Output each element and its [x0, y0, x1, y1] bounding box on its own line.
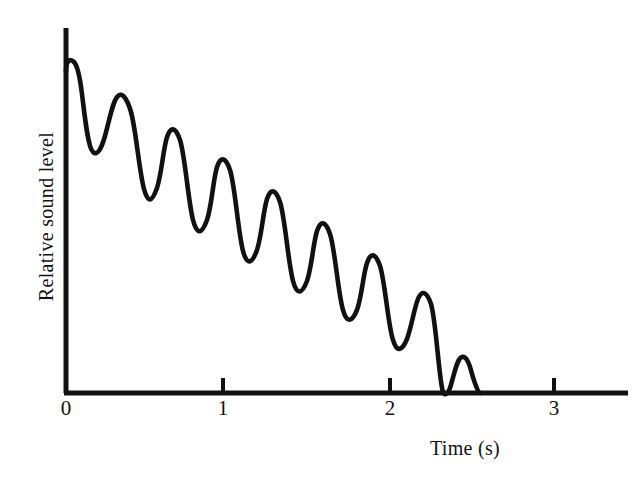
y-axis-title: Relative sound level	[35, 107, 58, 327]
sound-level-curve	[66, 60, 480, 394]
x-tick-label-1: 1	[208, 396, 238, 421]
sound-decay-chart: 0 1 2 3 Time (s) Relative sound level	[0, 0, 644, 484]
x-tick-label-0: 0	[51, 396, 81, 421]
x-tick-label-3: 3	[539, 396, 569, 421]
x-axis-title: Time (s)	[430, 437, 500, 460]
x-tick-label-2: 2	[375, 396, 405, 421]
